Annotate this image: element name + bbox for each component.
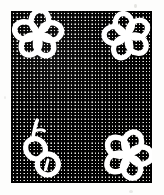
gingham-mesh-fabric-swatch xyxy=(11,11,152,183)
scanned-image-canvas xyxy=(0,0,164,195)
scan-speck-top xyxy=(134,4,137,8)
scan-speck-bottom xyxy=(129,190,133,193)
scan-speck-left xyxy=(4,96,6,99)
